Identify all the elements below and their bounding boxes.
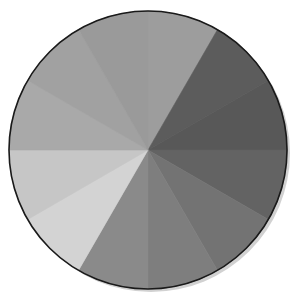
segmented-circle-figure [0, 0, 295, 298]
segmented-circle [0, 0, 295, 298]
wedge-group [9, 11, 287, 289]
